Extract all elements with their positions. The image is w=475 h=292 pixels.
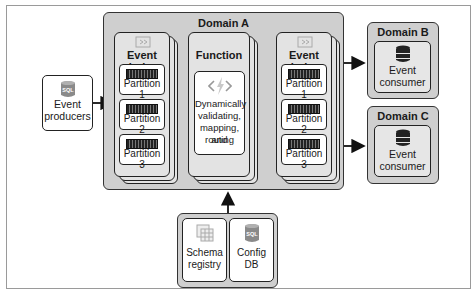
function-title: Function (189, 49, 249, 61)
config-db-label-1: Config (230, 247, 273, 259)
function-desc-1: Dynamically (195, 98, 244, 110)
partition-in-2: Partition 2 (119, 99, 165, 130)
function-desc-4: routing (195, 134, 244, 146)
consumer-b-label-2: consumer (375, 76, 430, 88)
event-producers-box: SQL Event producers (42, 75, 93, 131)
code-bolt-icon (208, 76, 232, 96)
function-desc-2: validating, (195, 110, 244, 122)
domain-c-title: Domain C (368, 110, 438, 122)
event-consumer-b: Event consumer (374, 41, 431, 93)
partition-in-1: Partition 1 (119, 64, 165, 95)
function-card: Dynamically validating, mapping, and rou… (194, 71, 245, 155)
partition-out-2: Partition 2 (281, 99, 327, 130)
event-producers-label-1: Event (43, 98, 92, 110)
svg-text:SQL: SQL (246, 231, 258, 237)
database-icon (395, 129, 411, 147)
config-db-label-2: DB (230, 259, 273, 271)
event-hubs-icon (297, 36, 313, 48)
svg-text:SQL: SQL (62, 87, 74, 93)
domain-c-container: Domain C Event consumer (367, 106, 439, 184)
event-hubs-icon (135, 36, 151, 48)
consumer-c-label-1: Event (375, 148, 430, 160)
function-panel: Function Dynamically validating, mapping… (188, 32, 250, 177)
event-hubs-out-panel: Event hubs Partition 1 Partition 2 Parti… (276, 32, 332, 177)
domain-b-container: Domain B Event consumer (367, 22, 439, 99)
config-db-box: SQL Config DB (229, 218, 274, 282)
partition-out-3: Partition 3 (281, 134, 327, 165)
database-icon (395, 45, 411, 63)
domain-b-title: Domain B (368, 26, 438, 38)
event-producers-label-2: producers (43, 110, 92, 122)
schema-registry-label-1: Schema (183, 247, 226, 259)
grid-table-icon (196, 224, 214, 242)
consumer-c-label-2: consumer (375, 160, 430, 172)
support-container: Schema registry SQL Config DB (177, 213, 278, 288)
event-consumer-c: Event consumer (374, 125, 431, 177)
sql-database-icon: SQL (244, 223, 260, 243)
partition-out-1: Partition 1 (281, 64, 327, 95)
domain-a-title: Domain A (104, 17, 343, 29)
consumer-b-label-1: Event (375, 64, 430, 76)
event-hubs-in-panel: Event hubs Partition 1 Partition 2 Parti… (114, 32, 170, 177)
schema-registry-box: Schema registry (182, 218, 227, 282)
sql-database-icon: SQL (60, 80, 76, 98)
partition-in-3: Partition 3 (119, 134, 165, 165)
schema-registry-label-2: registry (183, 259, 226, 271)
